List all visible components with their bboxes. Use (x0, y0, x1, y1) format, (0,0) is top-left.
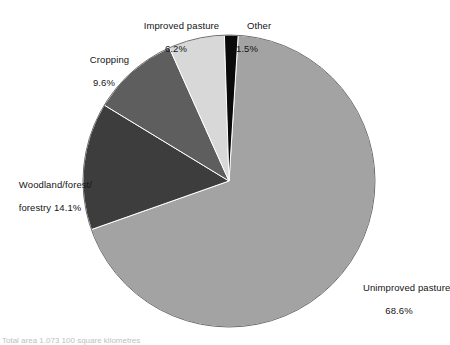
slice-label-unimproved-value: 68.6% (352, 305, 446, 317)
slice-label-other-value: 1.5% (236, 43, 306, 55)
chart-caption: Total area 1.073 100 square kilometres (2, 336, 140, 345)
slice-label-cropping-name: Cropping (90, 54, 129, 65)
slice-label-other: Other 1.5% (236, 8, 306, 77)
slice-label-woodland-name: Woodland/forest/ (19, 179, 92, 190)
slice-label-other-name: Other (247, 20, 271, 31)
slice-label-cropping-value: 9.6% (61, 77, 147, 89)
slice-label-cropping: Cropping 9.6% (61, 42, 147, 111)
slice-label-woodland-forest-forestry: Woodland/forest/ forestry 14.1% (2, 167, 98, 236)
slice-label-unimproved-pasture: Unimproved pasture 68.6% (352, 270, 446, 339)
slice-label-improved-pasture-name: Improved pasture (144, 20, 220, 31)
slice-label-woodland-value: forestry 14.1% (2, 202, 98, 214)
slice-label-unimproved-name: Unimproved pasture (363, 282, 450, 293)
